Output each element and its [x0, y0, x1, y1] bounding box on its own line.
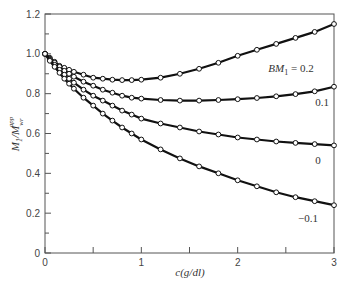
data-point-marker — [110, 118, 115, 123]
data-point-marker — [43, 51, 48, 56]
data-point-marker — [197, 129, 202, 134]
data-point-marker — [52, 64, 57, 69]
data-point-marker — [91, 75, 96, 80]
data-point-marker — [62, 76, 67, 81]
data-point-marker — [72, 80, 77, 85]
line-chart: 00.20.40.60.81.01.2 0123 c(g/dl) M1/Mwra… — [0, 0, 346, 283]
data-point-marker — [235, 135, 240, 140]
x-axis: 0123 — [42, 247, 337, 268]
y-tick-label: 0 — [34, 248, 40, 259]
data-point-marker — [312, 199, 317, 204]
data-point-marker — [293, 92, 298, 97]
data-point-marker — [129, 112, 134, 117]
data-point-marker — [67, 81, 72, 86]
data-point-marker — [72, 86, 77, 91]
data-point-marker — [197, 164, 202, 169]
data-point-marker — [120, 78, 125, 83]
data-point-marker — [197, 66, 202, 71]
data-point-marker — [178, 156, 183, 161]
data-point-marker — [216, 60, 221, 65]
data-point-marker — [293, 36, 298, 41]
data-point-marker — [332, 143, 337, 148]
data-point-marker — [110, 103, 115, 108]
data-point-marker — [100, 111, 105, 116]
data-point-marker — [110, 90, 115, 95]
data-point-marker — [100, 98, 105, 103]
data-point-marker — [312, 30, 317, 35]
data-point-marker — [158, 75, 163, 80]
data-point-marker — [332, 22, 337, 27]
data-point-marker — [235, 53, 240, 58]
data-point-marker — [197, 98, 202, 103]
data-point-marker — [312, 142, 317, 147]
data-point-marker — [255, 184, 260, 189]
data-point-marker — [255, 96, 260, 101]
data-point-marker — [235, 97, 240, 102]
data-point-marker — [100, 87, 105, 92]
data-point-marker — [139, 137, 144, 142]
data-point-marker — [139, 96, 144, 101]
y-tick-label: 0.8 — [26, 88, 40, 99]
data-point-marker — [312, 89, 317, 94]
data-point-marker — [91, 83, 96, 88]
data-point-marker — [178, 98, 183, 103]
data-point-marker — [81, 72, 86, 77]
data-point-marker — [67, 71, 72, 76]
data-point-marker — [129, 95, 134, 100]
y-tick-label: 1.0 — [26, 48, 40, 59]
y-tick-label: 0.6 — [26, 128, 40, 139]
data-point-marker — [72, 74, 77, 79]
data-point-marker — [274, 94, 279, 99]
data-point-marker — [120, 93, 125, 98]
data-point-marker — [332, 84, 337, 89]
data-point-marker — [129, 131, 134, 136]
series-label: 0 — [315, 154, 321, 166]
data-point-marker — [47, 58, 52, 63]
data-point-marker — [216, 132, 221, 137]
x-axis-title: c(g/dl) — [175, 266, 205, 279]
data-point-marker — [178, 125, 183, 130]
data-point-marker — [274, 190, 279, 195]
y-tick-label: 1.2 — [26, 9, 40, 20]
data-point-marker — [216, 171, 221, 176]
data-point-marker — [293, 195, 298, 200]
data-point-marker — [178, 71, 183, 76]
x-tick-label: 2 — [235, 257, 241, 268]
data-point-marker — [235, 178, 240, 183]
data-point-marker — [255, 137, 260, 142]
y-axis-title: M1/Mwrapp — [7, 116, 25, 152]
series-layer — [43, 22, 337, 208]
data-point-marker — [120, 108, 125, 113]
series-1 — [43, 51, 337, 103]
series-label: 0.1 — [315, 96, 329, 108]
data-point-marker — [81, 79, 86, 84]
data-point-marker — [81, 95, 86, 100]
data-point-marker — [72, 69, 77, 74]
plot-frame — [45, 14, 334, 253]
series-label: −0.1 — [298, 212, 318, 224]
data-point-marker — [332, 203, 337, 208]
data-point-marker — [120, 125, 125, 130]
data-point-marker — [274, 42, 279, 47]
data-point-marker — [139, 77, 144, 82]
data-point-marker — [293, 141, 298, 146]
x-tick-label: 3 — [331, 257, 337, 268]
series-label: BM1 = 0.2 — [268, 62, 313, 77]
data-point-marker — [100, 76, 105, 81]
x-tick-label: 1 — [139, 257, 145, 268]
data-point-marker — [158, 98, 163, 103]
y-tick-label: 0.2 — [26, 208, 40, 219]
y-tick-label: 0.4 — [26, 168, 40, 179]
data-point-marker — [110, 77, 115, 82]
data-point-marker — [139, 116, 144, 121]
x-tick-label: 0 — [42, 257, 48, 268]
data-point-marker — [81, 87, 86, 92]
y-axis: 00.20.40.60.81.01.2 — [26, 9, 51, 259]
data-point-marker — [274, 139, 279, 144]
data-point-marker — [158, 147, 163, 152]
svg-text:M1/Mwrapp: M1/Mwrapp — [7, 116, 25, 152]
data-point-marker — [57, 70, 62, 75]
data-point-marker — [216, 98, 221, 103]
data-point-marker — [91, 103, 96, 108]
data-point-marker — [91, 93, 96, 98]
